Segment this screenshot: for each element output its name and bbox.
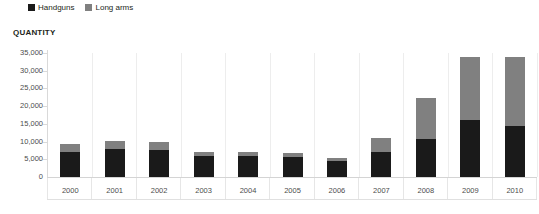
bar-segment-handguns[interactable] xyxy=(105,149,125,177)
y-axis-labels: 05,00010,00015,00020,00025,00030,00035,0… xyxy=(0,0,48,214)
y-axis-tick-mark xyxy=(43,159,47,160)
square-swatch xyxy=(85,4,92,11)
y-axis-tick-label: 35,000 xyxy=(20,49,43,57)
bar-segment-long-arms[interactable] xyxy=(283,153,303,157)
category-separator xyxy=(448,53,449,177)
x-axis-tick-separator xyxy=(136,178,137,200)
category-separator xyxy=(225,53,226,177)
y-axis-tick-label: 25,000 xyxy=(20,84,43,92)
bar-segment-handguns[interactable] xyxy=(283,157,303,177)
bar-group[interactable] xyxy=(105,141,125,177)
category-separator xyxy=(492,53,493,177)
x-axis-tick-separator xyxy=(314,178,315,200)
category-separator xyxy=(136,53,137,177)
x-axis-tick-separator xyxy=(47,178,48,200)
stacked-bar-chart: HandgunsLong arms QUANTITY 05,00010,0001… xyxy=(0,0,539,214)
x-axis-bottom-rule xyxy=(47,199,537,200)
bar-segment-handguns[interactable] xyxy=(60,152,80,177)
category-separator xyxy=(314,53,315,177)
bar-segment-handguns[interactable] xyxy=(416,139,436,177)
bar-group[interactable] xyxy=(194,152,214,178)
x-axis-tick-label: 2010 xyxy=(506,186,523,195)
bar-segment-handguns[interactable] xyxy=(149,150,169,177)
bar-group[interactable] xyxy=(327,158,347,177)
bar-segment-handguns[interactable] xyxy=(194,156,214,177)
category-separator xyxy=(359,53,360,177)
x-axis-tick-label: 2007 xyxy=(373,186,390,195)
bar-segment-handguns[interactable] xyxy=(327,161,347,177)
x-axis-tick-label: 2000 xyxy=(62,186,79,195)
x-axis-tick-separator xyxy=(180,178,181,200)
x-axis-tick-label: 2005 xyxy=(284,186,301,195)
x-axis-tick-separator xyxy=(225,178,226,200)
y-axis-tick-mark xyxy=(43,106,47,107)
legend-label: Long arms xyxy=(95,3,133,12)
bar-segment-long-arms[interactable] xyxy=(460,57,480,121)
bar-segment-handguns[interactable] xyxy=(505,126,525,177)
bar-segment-long-arms[interactable] xyxy=(149,142,169,151)
bar-segment-long-arms[interactable] xyxy=(327,158,347,162)
x-axis-tick-label: 2004 xyxy=(240,186,257,195)
x-axis-tick-separator xyxy=(269,178,270,200)
x-axis-tick-label: 2009 xyxy=(462,186,479,195)
y-axis-tick-label: 15,000 xyxy=(20,120,43,128)
y-axis-tick-mark xyxy=(43,71,47,72)
x-axis-tick-label: 2001 xyxy=(106,186,123,195)
bar-segment-long-arms[interactable] xyxy=(60,144,80,153)
bar-segment-long-arms[interactable] xyxy=(194,152,214,156)
bar-segment-long-arms[interactable] xyxy=(505,57,525,126)
legend-entry[interactable]: Long arms xyxy=(85,1,133,14)
bar-group[interactable] xyxy=(283,153,303,177)
x-axis-tick-label: 2006 xyxy=(329,186,346,195)
category-separator xyxy=(537,53,538,177)
y-axis-tick-mark xyxy=(43,53,47,54)
bar-group[interactable] xyxy=(149,142,169,177)
bar-group[interactable] xyxy=(505,57,525,177)
bar-segment-long-arms[interactable] xyxy=(371,138,391,153)
y-axis-tick-label: 20,000 xyxy=(20,102,43,110)
bar-segment-long-arms[interactable] xyxy=(416,98,436,140)
x-axis-tick-separator xyxy=(536,178,537,200)
x-axis-tick-separator xyxy=(403,178,404,200)
bar-group[interactable] xyxy=(460,57,480,177)
x-axis-tick-label: 2002 xyxy=(151,186,168,195)
bar-group[interactable] xyxy=(416,98,436,177)
y-axis-tick-mark xyxy=(43,142,47,143)
bar-segment-handguns[interactable] xyxy=(371,152,391,177)
x-axis-tick-label: 2008 xyxy=(418,186,435,195)
category-separator xyxy=(403,53,404,177)
y-axis-tick-mark xyxy=(43,88,47,89)
y-axis-tick-label: 10,000 xyxy=(20,138,43,146)
bar-group[interactable] xyxy=(60,144,80,177)
x-axis-tick-separator xyxy=(492,178,493,200)
x-axis-tick-separator xyxy=(358,178,359,200)
bar-group[interactable] xyxy=(371,138,391,177)
x-axis-tick-separator xyxy=(447,178,448,200)
category-separator xyxy=(92,53,93,177)
y-axis-tick-label: 30,000 xyxy=(20,67,43,75)
x-axis-tick-separator xyxy=(91,178,92,200)
category-separator xyxy=(181,53,182,177)
bar-segment-handguns[interactable] xyxy=(238,156,258,177)
bar-group[interactable] xyxy=(238,152,258,178)
category-separator xyxy=(270,53,271,177)
bar-segment-handguns[interactable] xyxy=(460,120,480,177)
bar-segment-long-arms[interactable] xyxy=(105,141,125,150)
bar-segment-long-arms[interactable] xyxy=(238,152,258,156)
y-axis-tick-label: 5,000 xyxy=(24,155,43,163)
y-axis-tick-mark xyxy=(43,124,47,125)
y-axis-tick-label: 0 xyxy=(39,173,43,181)
x-axis-tick-label: 2003 xyxy=(195,186,212,195)
plot-area xyxy=(48,53,537,177)
